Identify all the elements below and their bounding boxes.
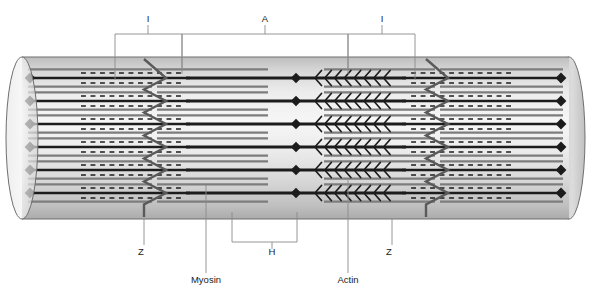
band-label: A <box>262 13 269 24</box>
band-label: I <box>147 13 150 24</box>
callout-label: H <box>269 246 276 257</box>
callout-z-right: Z <box>386 219 392 257</box>
sarcomere-diagram: IAI ZZMyosinActinH <box>0 0 591 297</box>
callout-label: Z <box>386 246 392 257</box>
callout-z-left: Z <box>138 219 144 257</box>
callout-label: Actin <box>337 274 358 285</box>
callout-label: Z <box>138 246 144 257</box>
sarcomere-figure: IAI ZZMyosinActinH <box>0 0 591 297</box>
cylinder-cap-left-group <box>6 57 38 219</box>
cylinder-cap-left <box>6 57 38 219</box>
callout-label: Myosin <box>191 274 221 285</box>
band-label: I <box>381 13 384 24</box>
